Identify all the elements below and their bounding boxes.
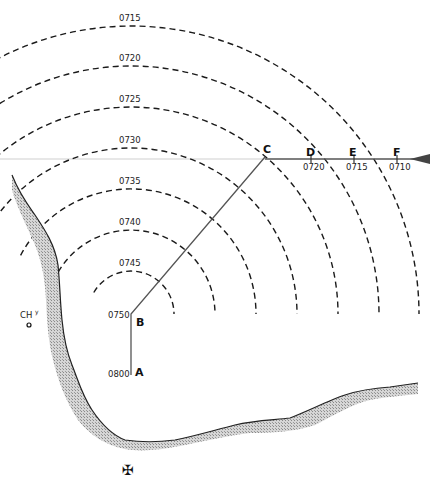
point-f-time: 0710 xyxy=(389,162,411,172)
point-d-label: D xyxy=(306,146,315,159)
point-e-time: 0715 xyxy=(346,162,368,172)
range-arc-label: 0740 xyxy=(119,217,141,227)
range-arc-label: 0730 xyxy=(119,135,141,145)
church-label: CH xyxy=(20,310,32,320)
maltese-cross-icon: ✠ xyxy=(122,462,134,478)
point-f-label: F xyxy=(393,146,401,159)
point-c-label: C xyxy=(263,143,271,156)
range-arc-label: 0715 xyxy=(119,13,141,23)
range-arc-label: 0720 xyxy=(119,53,141,63)
church-superscript: y xyxy=(35,308,39,316)
range-arc-label: 0745 xyxy=(119,258,141,268)
point-d-time: 0720 xyxy=(303,162,325,172)
navigation-diagram: 0745074007350730072507200715 A 0800 B 07… xyxy=(0,0,438,491)
church-marker-icon xyxy=(27,323,31,327)
point-a-label: A xyxy=(135,366,144,379)
range-arc-label: 0725 xyxy=(119,94,141,104)
point-b-time: 0750 xyxy=(108,310,130,320)
point-e-label: E xyxy=(349,146,357,159)
ship-track xyxy=(131,157,265,375)
point-b-label: B xyxy=(136,316,144,329)
range-arc-label: 0735 xyxy=(119,176,141,186)
arrowhead-icon xyxy=(410,154,430,164)
point-a-time: 0800 xyxy=(108,369,130,379)
